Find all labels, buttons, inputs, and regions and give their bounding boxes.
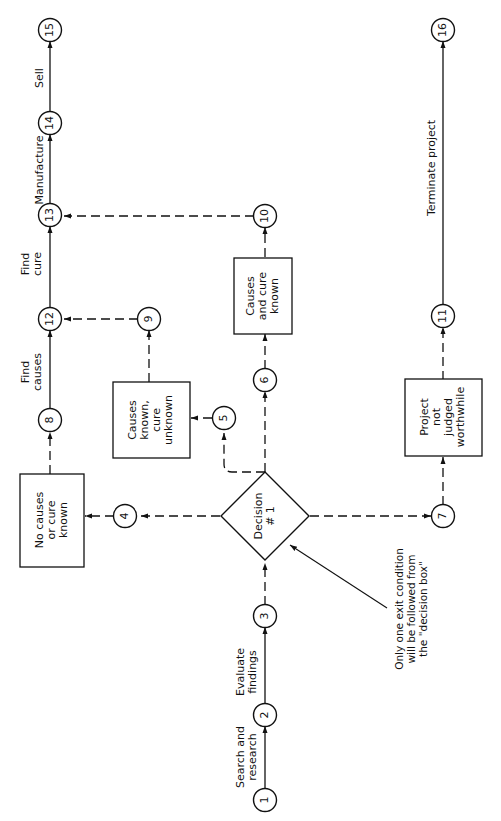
activity-find-cure: Find cure xyxy=(20,252,44,276)
node-label-9: 9 xyxy=(143,316,155,323)
activity-find-causes: Find causes xyxy=(20,353,44,391)
activity-manufacture: Manufacture xyxy=(34,135,46,204)
node-label-15: 15 xyxy=(44,23,56,37)
node-label-7: 7 xyxy=(437,513,449,520)
node-label-4: 4 xyxy=(119,513,131,520)
node-label-8: 8 xyxy=(44,417,56,424)
box-label-causes-cure-known: Causes and cure known xyxy=(245,272,281,320)
edge-decision-5 xyxy=(224,433,265,472)
node-label-14: 14 xyxy=(44,116,56,130)
node-label-13: 13 xyxy=(44,208,56,222)
node-label-12: 12 xyxy=(44,312,56,326)
box-label-not-worthwhile: Project not judged worthwhile xyxy=(419,387,467,447)
node-label-6: 6 xyxy=(259,377,271,384)
box-label-no-causes: No causes or cure known xyxy=(34,492,70,548)
node-label-16: 16 xyxy=(437,23,449,37)
node-label-1: 1 xyxy=(259,797,271,804)
activity-search-research: Search and research xyxy=(235,726,259,788)
node-label-5: 5 xyxy=(218,415,230,422)
node-label-3: 3 xyxy=(259,613,271,620)
decision-label: Decision # 1 xyxy=(253,493,277,540)
activity-sell: Sell xyxy=(34,68,46,88)
box-label-causes-known: Causes known, cure unknown xyxy=(127,395,175,445)
activity-terminate-project: Terminate project xyxy=(426,120,438,216)
node-label-10: 10 xyxy=(259,209,271,223)
annotation-pointer xyxy=(290,545,387,608)
activity-evaluate-findings: Evaluate findings xyxy=(235,648,259,696)
node-label-2: 2 xyxy=(259,712,271,719)
annotation-text: Only one exit condition will be followed… xyxy=(393,548,429,670)
node-label-11: 11 xyxy=(437,309,449,323)
